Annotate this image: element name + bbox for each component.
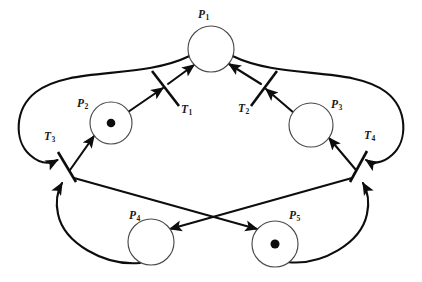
arc-p3-to-t2 <box>266 89 294 113</box>
place-p3[interactable] <box>289 103 333 147</box>
label-p3: P3 <box>331 99 342 111</box>
token-p5 <box>271 240 280 249</box>
arc-t2-to-p1 <box>229 64 261 84</box>
arc-t1-to-p1 <box>168 65 194 84</box>
arc-p4-to-t3 <box>57 183 140 263</box>
arc-t3-to-p2 <box>70 136 94 170</box>
label-t1: T1 <box>181 104 192 116</box>
places-group <box>90 26 333 267</box>
arc-t4-to-p3 <box>329 138 356 170</box>
place-p4[interactable] <box>128 219 174 265</box>
token-p2 <box>107 119 116 128</box>
label-p1: P1 <box>198 9 209 21</box>
label-p2: P2 <box>77 98 88 110</box>
transition-t2[interactable] <box>251 71 277 106</box>
label-p5: P5 <box>289 210 300 222</box>
label-t3: T3 <box>44 131 55 143</box>
arc-p2-to-t1 <box>128 88 163 112</box>
label-p4: P4 <box>129 210 140 222</box>
arc-t4-to-p4 <box>170 178 352 229</box>
transition-t1[interactable] <box>152 71 179 106</box>
arc-t3-to-p5 <box>74 178 257 229</box>
label-t4: T4 <box>364 130 375 142</box>
label-t2: T2 <box>238 103 249 115</box>
petri-net-diagram: P1 P2 P3 P4 P5 T1 T2 T3 T4 <box>0 0 422 282</box>
petri-net-canvas <box>0 0 422 282</box>
place-p1[interactable] <box>188 26 234 72</box>
